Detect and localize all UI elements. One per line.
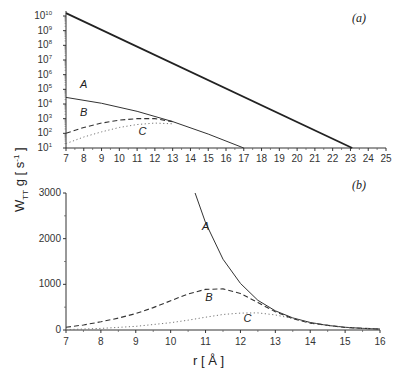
x-tick-label: 11 <box>132 153 143 164</box>
curve-label-A: A <box>79 78 87 90</box>
x-tick-label: 14 <box>185 153 197 164</box>
y-tick-label: 1000 <box>39 278 62 289</box>
y-tick-label: 109 <box>38 25 53 36</box>
x-tick-label: 8 <box>98 336 104 347</box>
ylabel-main: W <box>12 199 27 212</box>
ylabel-rest: g [ s <box>12 161 27 190</box>
y-tick-label: 104 <box>38 98 53 109</box>
x-tick-label: 11 <box>200 336 211 347</box>
series-A-curve <box>195 193 380 329</box>
x-tick-label: 10 <box>165 336 177 347</box>
y-tick-label: 101 <box>38 142 53 153</box>
x-tick-label: 10 <box>114 153 126 164</box>
x-tick-label: 13 <box>167 153 179 164</box>
x-tick-label: 13 <box>270 336 282 347</box>
x-tick-label: 15 <box>340 336 352 347</box>
x-tick-label: 25 <box>380 153 392 164</box>
curve-label-A: A <box>201 220 209 232</box>
y-axis-title: WTT g [ s-1 ] <box>12 147 30 212</box>
series-B-line <box>66 119 173 134</box>
panel-a-label: (a) <box>352 11 366 25</box>
y-tick-label: 106 <box>38 69 53 80</box>
curve-label-B: B <box>80 106 87 118</box>
x-tick-label: 18 <box>256 153 268 164</box>
x-tick-label: 9 <box>133 336 139 347</box>
x-tick-label: 14 <box>305 336 317 347</box>
x-tick-label: 9 <box>99 153 105 164</box>
series-C-line <box>66 123 173 144</box>
panel-a-log-plot: 7891011121314151617181920212223242510110… <box>34 10 392 164</box>
x-tick-label: 7 <box>63 153 69 164</box>
y-tick-label: 2000 <box>39 233 62 244</box>
x-tick-label: 19 <box>274 153 286 164</box>
x-tick-label: 23 <box>345 153 357 164</box>
x-tick-label: 20 <box>292 153 304 164</box>
x-axis-title: r [ Å ] <box>193 353 224 368</box>
curve-label-B: B <box>205 291 212 303</box>
series-C-curve <box>66 313 380 330</box>
x-tick-label: 16 <box>374 336 386 347</box>
y-tick-label: 107 <box>38 54 53 65</box>
curve-label-C: C <box>243 312 251 324</box>
series-B-curve <box>66 289 380 329</box>
y-tick-label: 0 <box>55 324 61 335</box>
x-tick-label: 12 <box>149 153 161 164</box>
panel-b-linear-plot: 789101112131415160100020003000ABC <box>39 187 386 347</box>
x-tick-label: 8 <box>81 153 87 164</box>
y-tick-label: 1010 <box>34 10 52 21</box>
x-tick-label: 17 <box>238 153 250 164</box>
x-tick-label: 16 <box>220 153 232 164</box>
y-tick-label: 105 <box>38 83 53 94</box>
series-total-line <box>66 13 352 148</box>
ylabel-end: ] <box>12 147 27 154</box>
curve-label-C: C <box>138 125 146 137</box>
y-tick-label: 102 <box>38 127 53 138</box>
x-tick-label: 15 <box>203 153 215 164</box>
x-tick-label: 7 <box>63 336 69 347</box>
chart-figure: 7891011121314151617181920212223242510110… <box>0 0 397 379</box>
x-tick-label: 21 <box>309 153 321 164</box>
x-tick-label: 24 <box>363 153 375 164</box>
x-tick-label: 12 <box>235 336 247 347</box>
svg-text:WTT g [ s-1 ]: WTT g [ s-1 ] <box>12 147 30 212</box>
series-A-line <box>66 97 244 148</box>
panel-b-label: (b) <box>352 178 366 192</box>
y-tick-label: 103 <box>38 113 53 124</box>
y-tick-label: 108 <box>38 39 53 50</box>
ylabel-sub: TT <box>21 190 30 200</box>
x-tick-label: 22 <box>327 153 339 164</box>
y-tick-label: 3000 <box>39 187 62 198</box>
